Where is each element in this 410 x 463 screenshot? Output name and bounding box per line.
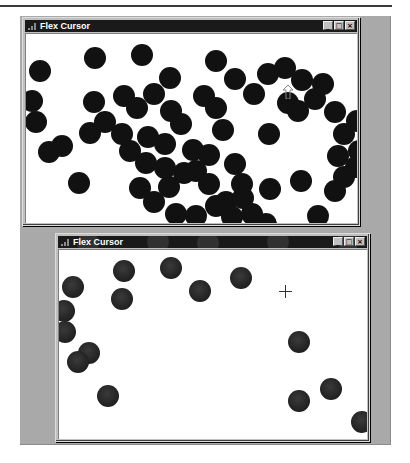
window-title: Flex Cursor — [73, 236, 123, 248]
ball — [224, 153, 246, 175]
ball — [290, 170, 312, 192]
ball — [258, 123, 280, 145]
ball — [312, 73, 334, 95]
ball — [198, 173, 220, 195]
ball — [189, 280, 211, 302]
window-title: Flex Cursor — [40, 20, 90, 32]
flex-cursor-window-top[interactable]: Flex Cursor _ □ × — [22, 17, 360, 226]
ball — [154, 157, 176, 179]
minimize-button[interactable]: _ — [333, 237, 343, 246]
maximize-button[interactable]: □ — [334, 21, 344, 30]
ball — [113, 260, 135, 282]
ball — [241, 203, 263, 223]
minimize-button[interactable]: _ — [323, 21, 333, 30]
ball — [205, 97, 227, 119]
app-icon — [28, 23, 37, 30]
ball — [324, 180, 346, 202]
ball — [224, 68, 246, 90]
ball — [143, 83, 165, 105]
close-button[interactable]: × — [355, 237, 365, 246]
ball — [307, 205, 329, 223]
ball — [288, 390, 310, 412]
close-button[interactable]: × — [345, 21, 355, 30]
ball — [159, 67, 181, 89]
ball — [58, 321, 76, 343]
ball — [68, 172, 90, 194]
ball — [185, 205, 207, 223]
ball — [205, 50, 227, 72]
ball — [351, 411, 367, 433]
ball — [320, 378, 342, 400]
ball — [165, 203, 187, 223]
arrow-cursor-icon — [283, 85, 293, 99]
title-bar[interactable]: Flex Cursor _ □ × — [25, 20, 357, 32]
page-rule — [0, 5, 392, 7]
maximize-button[interactable]: □ — [344, 237, 354, 246]
ball — [58, 300, 75, 322]
ball — [212, 119, 234, 141]
ball — [97, 385, 119, 407]
ball — [131, 44, 153, 66]
ball-ghost — [197, 236, 219, 248]
ball — [111, 288, 133, 310]
flex-cursor-window-bottom[interactable]: Flex Cursor _ □ × — [55, 233, 370, 442]
ball — [62, 276, 84, 298]
ball — [259, 178, 281, 200]
ball-ghost — [147, 236, 169, 248]
ball — [25, 111, 47, 133]
crosshair-cursor-icon — [279, 285, 292, 298]
ball-canvas[interactable] — [58, 249, 367, 439]
ball — [230, 267, 252, 289]
ball — [29, 60, 51, 82]
ball — [160, 257, 182, 279]
ball — [83, 91, 105, 113]
app-icon — [61, 239, 70, 246]
ball — [243, 83, 265, 105]
ball — [154, 133, 176, 155]
ball — [170, 113, 192, 135]
ball — [25, 90, 43, 112]
ball — [288, 331, 310, 353]
ball-canvas[interactable] — [25, 33, 357, 223]
ball — [84, 47, 106, 69]
ball — [291, 69, 313, 91]
ball — [324, 101, 346, 123]
ball — [51, 135, 73, 157]
ball — [67, 351, 89, 373]
title-bar[interactable]: Flex Cursor _ □ × — [58, 236, 367, 248]
ball — [231, 173, 253, 195]
ball-ghost — [267, 236, 289, 248]
ball — [221, 206, 243, 223]
